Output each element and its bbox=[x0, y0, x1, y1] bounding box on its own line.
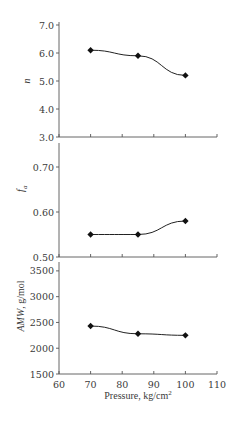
data-point-marker bbox=[87, 47, 93, 53]
y-tick-label: 5.0 bbox=[39, 76, 54, 87]
x-tick-label: 100 bbox=[176, 379, 194, 390]
y-tick-label: 3500 bbox=[30, 265, 54, 276]
data-point-marker bbox=[87, 231, 93, 237]
x-tick-label: 70 bbox=[85, 379, 97, 390]
x-axis-title: Pressure, kg/cm2 bbox=[104, 389, 172, 401]
y-tick-label: 3000 bbox=[30, 291, 54, 302]
x-tick-label: 60 bbox=[53, 379, 65, 390]
x-axis-tick-labels: 60708090100110 bbox=[53, 379, 226, 390]
data-point-marker bbox=[182, 332, 188, 338]
y-tick-label: 0.60 bbox=[33, 207, 54, 218]
y-axis-title: n bbox=[21, 79, 32, 84]
y-tick-label: 1500 bbox=[30, 369, 54, 380]
data-point-marker bbox=[182, 218, 188, 224]
y-tick-label: 2500 bbox=[30, 317, 54, 328]
panel-fa: 0.500.600.70fa bbox=[15, 143, 217, 263]
panel-n: 3.04.05.06.07.0n bbox=[21, 20, 217, 143]
x-tick-label: 80 bbox=[116, 379, 128, 390]
stacked-line-chart: 3.04.05.06.07.0n 0.500.600.70fa 15002000… bbox=[0, 0, 238, 421]
y-tick-label: 7.0 bbox=[39, 20, 54, 31]
x-tick-label: 90 bbox=[148, 379, 160, 390]
y-tick-label: 2000 bbox=[30, 343, 54, 354]
y-axis-title: AMW, g/mol bbox=[15, 280, 26, 332]
y-tick-label: 0.70 bbox=[33, 162, 54, 173]
y-tick-label: 4.0 bbox=[39, 104, 54, 115]
x-tick-label: 110 bbox=[208, 379, 226, 390]
data-point-marker bbox=[87, 323, 93, 329]
data-point-marker bbox=[135, 331, 141, 337]
y-tick-label: 0.50 bbox=[33, 252, 54, 263]
data-point-marker bbox=[182, 72, 188, 78]
panel-amw: 15002000250030003500AMW, g/mol bbox=[15, 262, 217, 380]
y-axis-title: fa bbox=[15, 185, 29, 192]
y-tick-label: 6.0 bbox=[39, 48, 54, 59]
y-tick-label: 3.0 bbox=[39, 132, 54, 143]
data-point-marker bbox=[135, 231, 141, 237]
data-point-marker bbox=[135, 53, 141, 59]
